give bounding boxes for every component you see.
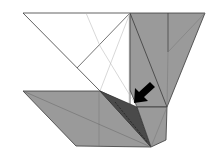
origami-diagram-svg bbox=[0, 0, 213, 159]
origami-diagram bbox=[0, 0, 213, 159]
